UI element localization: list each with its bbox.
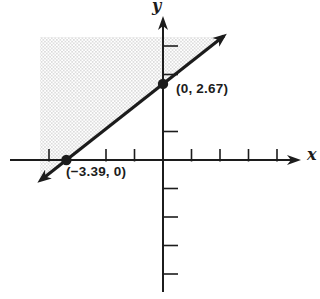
y-intercept-label: (0, 2.67)	[176, 81, 228, 96]
figure: y x (0, 2.67) (−3.39, 0)	[0, 0, 320, 299]
graph-canvas	[0, 0, 320, 299]
y-intercept-point	[158, 79, 168, 89]
x-axis-label: x	[307, 145, 317, 164]
x-intercept-label: (−3.39, 0)	[66, 164, 126, 179]
y-axis-label: y	[152, 0, 161, 15]
